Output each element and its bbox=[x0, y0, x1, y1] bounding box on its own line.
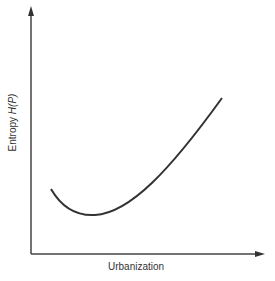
entropy-curve bbox=[51, 98, 222, 215]
x-axis-label: Urbanization bbox=[108, 261, 164, 272]
x-axis bbox=[31, 251, 265, 257]
y-axis bbox=[28, 6, 34, 254]
chart-canvas bbox=[0, 0, 275, 281]
y-axis-label: Entropy H(P) bbox=[7, 73, 18, 173]
